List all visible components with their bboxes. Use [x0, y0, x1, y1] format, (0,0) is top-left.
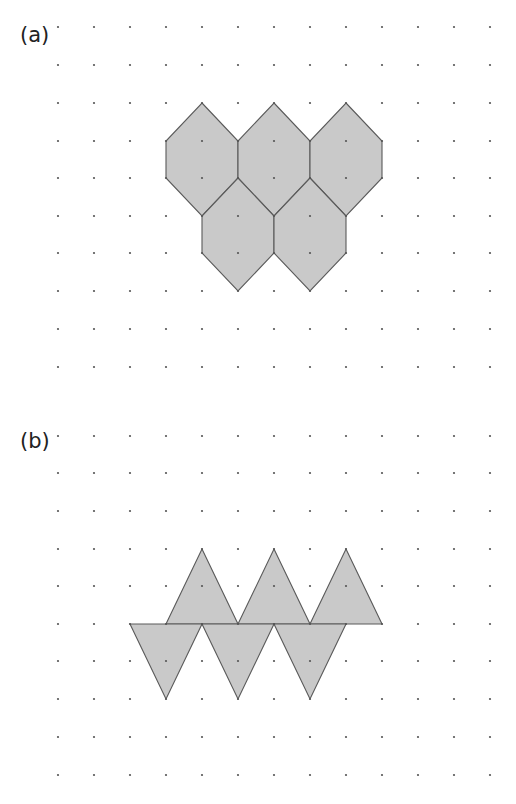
grid-dot: [201, 328, 203, 330]
grid-dot: [273, 64, 275, 66]
grid-dot: [381, 774, 383, 776]
grid-dot: [453, 215, 455, 217]
grid-dot: [57, 177, 59, 179]
grid-dot: [237, 736, 239, 738]
grid-dot: [201, 290, 203, 292]
grid-dot: [417, 177, 419, 179]
grid-dot: [489, 472, 491, 474]
grid-dot: [489, 698, 491, 700]
grid-dot: [57, 215, 59, 217]
grid-dot: [273, 660, 275, 662]
grid-dot: [417, 698, 419, 700]
grid-dot: [309, 215, 311, 217]
grid-dot: [345, 736, 347, 738]
grid-dot: [165, 698, 167, 700]
grid-dot: [129, 698, 131, 700]
grid-dot: [93, 774, 95, 776]
grid-dot: [129, 328, 131, 330]
grid-dot: [381, 102, 383, 104]
grid-dot: [345, 177, 347, 179]
grid-dot: [129, 102, 131, 104]
grid-dot: [309, 585, 311, 587]
grid-dot: [129, 26, 131, 28]
grid-dot: [93, 660, 95, 662]
grid-dot: [237, 774, 239, 776]
grid-dot: [345, 290, 347, 292]
grid-dot: [453, 698, 455, 700]
grid-dot: [345, 26, 347, 28]
grid-dot: [417, 102, 419, 104]
grid-dot: [165, 64, 167, 66]
dot-grid-diagram: [0, 0, 516, 804]
grid-dot: [417, 623, 419, 625]
grid-dot: [93, 102, 95, 104]
grid-dot: [489, 623, 491, 625]
grid-dot: [417, 435, 419, 437]
grid-dot: [57, 328, 59, 330]
grid-dot: [345, 328, 347, 330]
grid-dot: [273, 140, 275, 142]
grid-dot: [381, 290, 383, 292]
grid-dot: [309, 510, 311, 512]
grid-dot: [273, 102, 275, 104]
grid-dot: [417, 660, 419, 662]
grid-dot: [453, 736, 455, 738]
grid-dot: [165, 510, 167, 512]
grid-dot: [201, 623, 203, 625]
grid-dot: [201, 548, 203, 550]
grid-dot: [93, 548, 95, 550]
grid-dot: [201, 435, 203, 437]
grid-dot: [57, 472, 59, 474]
grid-dot: [93, 252, 95, 254]
grid-dot: [309, 140, 311, 142]
grid-dot: [201, 252, 203, 254]
grid-dot: [417, 140, 419, 142]
grid-dot: [165, 252, 167, 254]
grid-dot: [165, 215, 167, 217]
grid-dot: [57, 252, 59, 254]
grid-dot: [381, 252, 383, 254]
grid-dot: [309, 252, 311, 254]
grid-dot: [309, 177, 311, 179]
grid-dot: [57, 435, 59, 437]
grid-dot: [93, 472, 95, 474]
grid-dot: [129, 290, 131, 292]
grid-dot: [165, 366, 167, 368]
grid-dot: [201, 366, 203, 368]
grid-dot: [453, 660, 455, 662]
grid-dot: [381, 328, 383, 330]
grid-dot: [381, 26, 383, 28]
grid-dot: [417, 366, 419, 368]
grid-dot: [93, 366, 95, 368]
grid-dot: [93, 736, 95, 738]
grid-dot: [453, 510, 455, 512]
grid-dot: [489, 366, 491, 368]
grid-dot: [417, 252, 419, 254]
grid-dot: [309, 736, 311, 738]
grid-dot: [309, 102, 311, 104]
grid-dot: [381, 435, 383, 437]
grid-dot: [273, 328, 275, 330]
grid-dot: [57, 736, 59, 738]
grid-dot: [165, 472, 167, 474]
grid-dot: [489, 177, 491, 179]
grid-dot: [201, 64, 203, 66]
grid-dot: [93, 623, 95, 625]
grid-dot: [417, 328, 419, 330]
grid-dot: [273, 366, 275, 368]
grid-dot: [165, 328, 167, 330]
grid-dot: [273, 290, 275, 292]
grid-dot: [129, 435, 131, 437]
grid-dot: [201, 660, 203, 662]
grid-dot: [237, 435, 239, 437]
grid-dot: [237, 177, 239, 179]
grid-dot: [165, 623, 167, 625]
grid-dot: [129, 366, 131, 368]
grid-dot: [309, 660, 311, 662]
grid-dot: [381, 623, 383, 625]
grid-dot: [345, 585, 347, 587]
grid-dot: [93, 26, 95, 28]
grid-dot: [345, 252, 347, 254]
grid-dot: [345, 698, 347, 700]
grid-dot: [453, 435, 455, 437]
